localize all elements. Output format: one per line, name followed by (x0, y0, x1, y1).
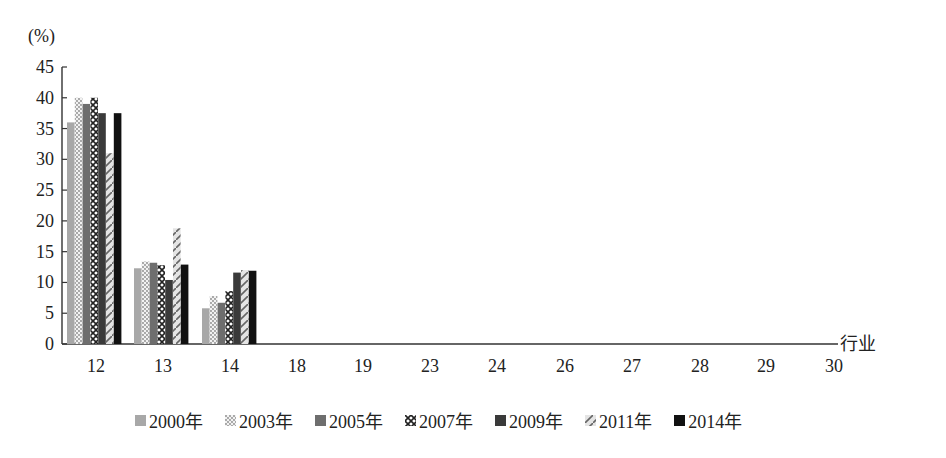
legend-item: 2005年 (315, 407, 383, 433)
x-tick-label: 29 (757, 356, 775, 376)
legend-label: 2009年 (509, 407, 563, 433)
x-tick-label: 30 (825, 356, 843, 376)
legend-item: 2003年 (225, 407, 293, 433)
legend-item: 2014年 (674, 407, 742, 433)
legend-label: 2000年 (149, 407, 203, 433)
y-axis-label: (%) (28, 26, 55, 47)
bar (202, 308, 210, 344)
bar (233, 273, 241, 344)
x-tick-label: 18 (288, 356, 306, 376)
legend-swatch-icon (315, 415, 326, 426)
x-tick-label: 26 (556, 356, 574, 376)
bar (142, 262, 150, 344)
y-tick-label: 20 (36, 211, 54, 231)
legend-item: 2011年 (585, 407, 652, 433)
legend-label: 2003年 (239, 407, 293, 433)
x-tick-label: 12 (87, 356, 105, 376)
y-tick-label: 30 (36, 149, 54, 169)
bar (98, 113, 106, 344)
legend-swatch-icon (135, 415, 146, 426)
x-tick-label: 28 (691, 356, 709, 376)
bar (218, 303, 226, 344)
legend-label: 2014年 (688, 407, 742, 433)
bar (134, 268, 142, 344)
y-tick-label: 25 (36, 180, 54, 200)
x-axis-label: 行业 (840, 334, 876, 354)
legend-label: 2011年 (599, 407, 652, 433)
y-tick-label: 5 (45, 303, 54, 323)
bar (241, 270, 249, 344)
legend-swatch-icon (674, 415, 685, 426)
legend-label: 2005年 (329, 407, 383, 433)
bar (114, 113, 122, 344)
bar (83, 104, 91, 344)
legend-item: 2009年 (495, 407, 563, 433)
legend-swatch-icon (225, 415, 236, 426)
bar (90, 98, 98, 344)
y-tick-label: 10 (36, 272, 54, 292)
x-tick-label: 23 (421, 356, 439, 376)
y-tick-label: 40 (36, 88, 54, 108)
bar (181, 265, 189, 344)
x-tick-label: 19 (354, 356, 372, 376)
bar (106, 153, 114, 344)
bar (249, 271, 257, 344)
bar (210, 296, 218, 344)
bar (165, 280, 173, 344)
y-tick-label: 35 (36, 119, 54, 139)
legend-item: 2000年 (135, 407, 203, 433)
legend-swatch-icon (585, 415, 596, 426)
x-tick-label: 13 (154, 356, 172, 376)
bar (75, 98, 83, 344)
bar (225, 291, 233, 344)
bar (157, 265, 165, 344)
chart-legend: 2000年2003年2005年2007年2009年2011年2014年 (135, 407, 742, 433)
x-tick-label: 27 (623, 356, 641, 376)
bar (150, 263, 158, 344)
y-tick-label: 15 (36, 242, 54, 262)
x-tick-label: 24 (488, 356, 506, 376)
legend-swatch-icon (405, 415, 416, 426)
bar (67, 122, 75, 344)
legend-swatch-icon (495, 415, 506, 426)
legend-item: 2007年 (405, 407, 473, 433)
bar (173, 228, 181, 344)
y-tick-label: 45 (36, 57, 54, 77)
bar-chart: 051015202530354045(%)行业12131418192324262… (0, 0, 946, 400)
legend-label: 2007年 (419, 407, 473, 433)
x-tick-label: 14 (221, 356, 239, 376)
y-tick-label: 0 (45, 334, 54, 354)
